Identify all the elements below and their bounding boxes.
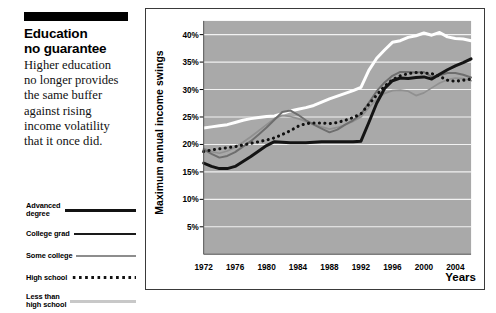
legend-item: Some college	[26, 249, 138, 263]
chart-legend: Advanced degreeCollege gradSome collegeH…	[26, 202, 138, 313]
plot-background	[204, 21, 471, 254]
article-body-line: the same buffer	[24, 88, 136, 103]
y-axis-tick-label: 20%	[182, 140, 199, 149]
y-axis-tick-label: 35%	[182, 58, 199, 67]
legend-item-swatch	[70, 296, 138, 306]
legend-item: College grad	[26, 227, 138, 241]
x-axis-tick-label: 1996	[383, 263, 402, 272]
x-axis-tick-label: 2000	[415, 263, 434, 272]
legend-item-swatch	[74, 229, 138, 239]
y-axis-tick-label: 30%	[182, 86, 199, 95]
y-axis-tick-label: 5%	[187, 223, 200, 232]
x-axis-tick-label: 1972	[194, 263, 213, 272]
legend-item-swatch	[71, 273, 138, 283]
article-body-line: income volatility	[24, 119, 136, 134]
chart-panel: Maximum annual income swings 5%10%15%20%…	[145, 8, 485, 290]
x-axis-tick-label: 1984	[289, 263, 308, 272]
legend-item-swatch	[65, 205, 138, 215]
headline-line: Education	[24, 26, 136, 41]
legend-item-swatch	[76, 251, 138, 261]
headline-line: no guarantee	[24, 41, 136, 56]
x-axis-title: Years	[445, 271, 476, 283]
legend-item-label: Some college	[26, 252, 72, 260]
article-body-line: against rising	[24, 104, 136, 119]
article-body-line: Higher education	[24, 58, 136, 73]
page-title: Educationno guarantee	[24, 26, 136, 56]
x-axis-tick-label: 1988	[320, 263, 339, 272]
y-axis-tick-label: 15%	[182, 168, 199, 177]
legend-item-label: Less than high school	[26, 293, 66, 310]
article-body-line: no longer provides	[24, 73, 136, 88]
article-body: Higher educationno longer providesthe sa…	[24, 58, 136, 149]
x-axis-tick-label: 1980	[257, 263, 276, 272]
legend-item-label: College grad	[26, 230, 70, 238]
article-body-line: that it once did.	[24, 134, 136, 149]
x-axis-tick-label: 1976	[226, 263, 245, 272]
y-axis-tick-label: 10%	[182, 195, 199, 204]
y-axis-tick-label: 25%	[182, 113, 199, 122]
legend-item: Less than high school	[26, 293, 138, 310]
line-chart: 5%10%15%20%25%30%35%40%19721976198019841…	[146, 9, 484, 289]
x-axis-tick-label: 1992	[352, 263, 371, 272]
legend-item-label: Advanced degree	[26, 202, 61, 219]
header-rule-bar	[24, 12, 128, 21]
y-axis-tick-label: 40%	[182, 31, 199, 40]
legend-item: Advanced degree	[26, 202, 138, 219]
legend-item: High school	[26, 271, 138, 285]
legend-item-label: High school	[26, 274, 67, 282]
